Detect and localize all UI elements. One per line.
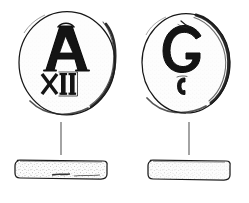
archaeological-drawing-figure: Archaeological line drawing of two stamp… [0, 0, 249, 203]
right-disc-profile-view [147, 159, 232, 181]
left-disc-profile-view [14, 159, 109, 180]
left-disc-plan-view: A XII [19, 11, 115, 115]
drawing-canvas: A XII [0, 0, 249, 203]
right-disc-plan-view: G C [142, 13, 230, 113]
